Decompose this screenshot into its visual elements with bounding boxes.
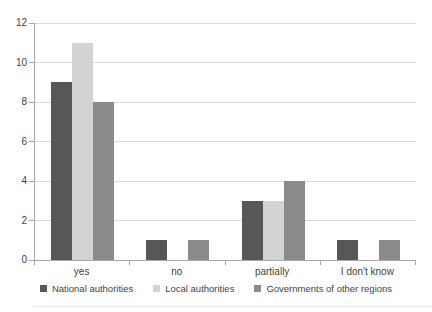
- legend-item-governments-of-other-regions: Governments of other regions: [254, 283, 392, 294]
- bar-partially-local-authorities: [263, 201, 284, 260]
- x-tick-3: [320, 261, 321, 265]
- legend-swatch-icon-local-authorities: [153, 285, 160, 292]
- legend-label-governments-of-other-regions: Governments of other regions: [266, 283, 392, 294]
- bar-no-national-authorities: [146, 240, 167, 260]
- bar-yes-national-authorities: [51, 82, 72, 260]
- y-axis-label-10: 10: [3, 57, 27, 69]
- y-axis-label-8: 8: [3, 96, 27, 108]
- bar-yes-governments-of-other-regions: [93, 102, 114, 260]
- legend-swatch-icon-governments-of-other-regions: [254, 285, 261, 292]
- bar-i-don-t-know-governments-of-other-regions: [379, 240, 400, 260]
- x-tick-2: [225, 261, 226, 265]
- x-tick-0: [34, 261, 35, 265]
- x-axis-label-i-don-t-know: I don't know: [320, 266, 415, 278]
- legend-item-local-authorities: Local authorities: [153, 283, 234, 294]
- legend: National authoritiesLocal authoritiesGov…: [0, 283, 432, 294]
- bar-yes-local-authorities: [72, 43, 93, 260]
- y-axis-label-2: 2: [3, 215, 27, 227]
- y-axis-label-12: 12: [3, 17, 27, 29]
- bar-no-governments-of-other-regions: [188, 240, 209, 260]
- legend-label-national-authorities: National authorities: [52, 283, 133, 294]
- plot-area: [34, 23, 416, 261]
- legend-label-local-authorities: Local authorities: [165, 283, 234, 294]
- x-tick-1: [129, 261, 130, 265]
- x-axis-label-no: no: [129, 266, 224, 278]
- legend-item-national-authorities: National authorities: [40, 283, 133, 294]
- x-tick-4: [415, 261, 416, 265]
- bar-i-don-t-know-national-authorities: [337, 240, 358, 260]
- grouped-bar-chart: 024681012 yesnopartiallyI don't know Nat…: [0, 0, 432, 312]
- x-axis-label-partially: partially: [225, 266, 320, 278]
- gridline-12: [35, 23, 416, 24]
- legend-swatch-icon-national-authorities: [40, 285, 47, 292]
- page-edge-rule: [33, 306, 432, 307]
- y-axis-label-0: 0: [3, 254, 27, 266]
- x-axis-label-yes: yes: [34, 266, 129, 278]
- bar-partially-national-authorities: [242, 201, 263, 260]
- bar-partially-governments-of-other-regions: [284, 181, 305, 260]
- y-axis-label-6: 6: [3, 136, 27, 148]
- y-axis-label-4: 4: [3, 175, 27, 187]
